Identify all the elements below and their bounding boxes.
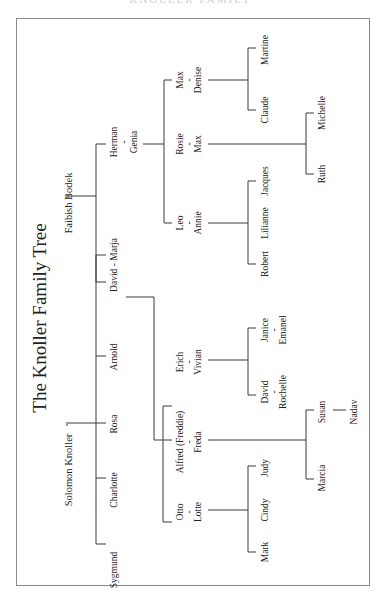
person-robert: Robert	[260, 251, 270, 277]
person-freda: Freda	[193, 430, 203, 452]
person-susan: Susan	[317, 400, 327, 423]
person-genia: Genia	[129, 130, 139, 153]
person-max-rosie-spouse: Max	[193, 135, 203, 153]
max-denise-connector	[208, 48, 256, 110]
spouse-dash: -	[119, 140, 129, 143]
person-claude: Claude	[260, 97, 270, 124]
otto-lotte-connector	[208, 466, 256, 552]
erich-vivian-connector	[208, 328, 256, 395]
person-ruth: Ruth	[317, 165, 327, 184]
root-faibish-bodek: Faibish Bodek	[63, 172, 74, 234]
person-lilianne: Lilianne	[260, 207, 270, 239]
person-annie: Annie	[193, 211, 203, 234]
person-rochelle: Rochelle	[278, 375, 288, 409]
tree-title: The Knoller Family Tree	[29, 223, 50, 412]
person-arnold: Arnold	[109, 343, 119, 370]
family-tree-diagram: The Knoller Family Tree Solomon Knoller …	[0, 0, 381, 609]
person-judy: Judy	[260, 459, 270, 477]
person-martine: Martine	[260, 35, 270, 65]
person-cindy: Cindy	[260, 498, 270, 521]
person-mark: Mark	[260, 541, 270, 562]
person-vivian: Vivian	[193, 349, 203, 375]
person-marcia: Marcia	[317, 464, 327, 492]
person-lotte: Lotte	[193, 502, 203, 522]
person-denise: Denise	[193, 67, 203, 93]
person-sygmund: Sygmund	[109, 552, 119, 589]
person-michelle: Michelle	[317, 96, 327, 130]
herman-genia-connector	[143, 80, 172, 223]
person-david-marja: David - Marja	[109, 237, 119, 292]
person-herman: Herman	[109, 126, 119, 157]
root-solomon-knoller: Solomon Knoller	[63, 433, 74, 506]
leo-annie-connector	[208, 181, 256, 264]
person-nadav: Nadav	[349, 399, 359, 424]
person-rosa: Rosa	[109, 414, 119, 434]
david-marja-connector	[126, 297, 172, 522]
person-charlotte: Charlotte	[109, 472, 119, 507]
person-emanel: Emanel	[278, 315, 288, 344]
person-jacques: Jacques	[260, 166, 270, 196]
